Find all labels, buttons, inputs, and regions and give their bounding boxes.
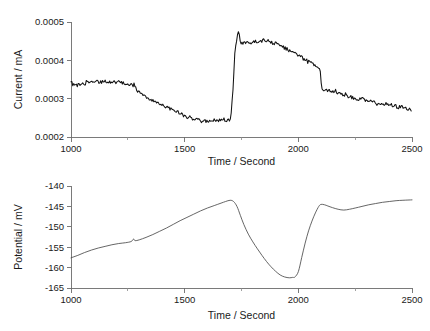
y-tick-label: -140 xyxy=(45,180,64,191)
y-tick-label: 0.0004 xyxy=(35,55,64,66)
current-y-ticks xyxy=(67,22,71,137)
current-x-ticks xyxy=(71,137,412,142)
current-x-axis-title: Time / Second xyxy=(208,155,275,167)
current-data-trace xyxy=(71,32,411,123)
panel-current: 0.00020.00030.00040.0005 100015002000250… xyxy=(12,16,423,167)
y-tick-label: -155 xyxy=(45,242,64,253)
potential-x-tick-labels: 1000150020002500 xyxy=(60,294,422,305)
y-tick-label: -160 xyxy=(45,262,64,273)
x-tick-label: 1500 xyxy=(174,294,195,305)
chart-figure: 0.00020.00030.00040.0005 100015002000250… xyxy=(0,0,430,331)
potential-x-axis-title: Time / Second xyxy=(208,309,275,321)
x-tick-label: 1500 xyxy=(174,143,195,154)
x-tick-label: 2000 xyxy=(288,143,309,154)
figure-container: 0.00020.00030.00040.0005 100015002000250… xyxy=(0,0,430,331)
x-tick-label: 1000 xyxy=(60,294,81,305)
y-tick-label: 0.0003 xyxy=(35,93,64,104)
x-tick-label: 2500 xyxy=(401,294,422,305)
panel-potential: -165-160-155-150-145-140 100015002000250… xyxy=(12,180,423,321)
current-x-tick-labels: 1000150020002500 xyxy=(60,143,422,154)
y-tick-label: 0.0002 xyxy=(35,131,64,142)
potential-data-trace xyxy=(71,200,412,278)
y-tick-label: -150 xyxy=(45,221,64,232)
y-tick-label: -145 xyxy=(45,201,64,212)
potential-y-ticks xyxy=(67,186,71,288)
y-tick-label: -165 xyxy=(45,282,64,293)
current-y-tick-labels: 0.00020.00030.00040.0005 xyxy=(35,16,64,142)
current-y-axis-title: Current / mA xyxy=(12,50,24,110)
potential-x-ticks xyxy=(71,288,412,293)
x-tick-label: 2500 xyxy=(401,143,422,154)
potential-axes xyxy=(67,186,412,293)
y-tick-label: 0.0005 xyxy=(35,16,64,27)
current-axes xyxy=(67,22,412,142)
potential-y-axis-title: Potential / mV xyxy=(12,204,24,269)
x-tick-label: 1000 xyxy=(60,143,81,154)
potential-y-tick-labels: -165-160-155-150-145-140 xyxy=(45,180,64,293)
x-tick-label: 2000 xyxy=(288,294,309,305)
